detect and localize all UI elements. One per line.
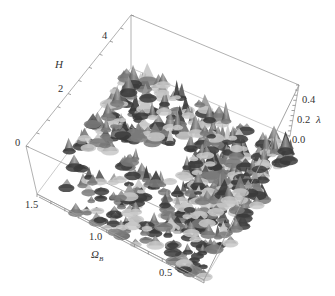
h-tick-0: 0 (15, 137, 20, 148)
omega-axis-label: ΩB (91, 248, 103, 263)
h-tick-4: 4 (102, 30, 107, 41)
omega-tick-10: 1.0 (89, 231, 102, 242)
h-tick-2: 2 (58, 83, 63, 94)
lambda-tick-02: 0.2 (297, 114, 310, 125)
h-axis-label: H (55, 58, 63, 70)
omega-tick-05: 0.5 (159, 267, 172, 278)
lambda-tick-04: 0.4 (302, 94, 315, 105)
surface-plot (0, 0, 335, 296)
omega-tick-15: 1.5 (25, 199, 38, 210)
lambda-axis-label: λ (316, 113, 321, 125)
lambda-tick-00: 0.0 (292, 134, 305, 145)
